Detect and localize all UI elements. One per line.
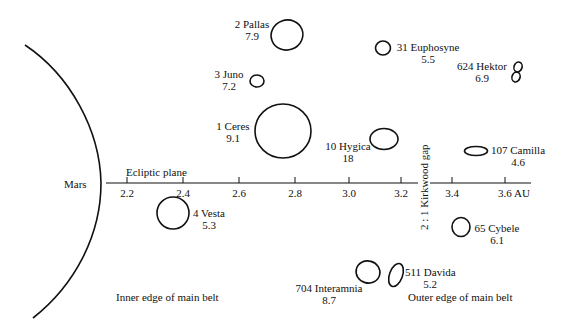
asteroid-ceres-name: 1 Ceres <box>212 120 254 132</box>
asteroid-euphrosyne-shape <box>376 41 391 55</box>
asteroid-juno-value: 7.2 <box>212 80 246 92</box>
asteroid-hygiea-label: 10 Hygica 18 <box>322 140 374 164</box>
asteroid-pallas-label: 2 Pallas 7.9 <box>232 18 272 42</box>
asteroid-hektor-name: 624 Hektor <box>455 60 509 72</box>
tick-label-2-2: 2.2 <box>120 187 134 199</box>
tick-label-3-2: 3.2 <box>394 187 408 199</box>
kirkwood-gap-label: 2 : 1 Kirkwood gap <box>418 144 430 230</box>
asteroid-juno-label: 3 Juno 7.2 <box>212 68 246 92</box>
asteroid-camilla-shape <box>465 147 488 156</box>
asteroid-hygiea-shape <box>370 129 398 150</box>
asteroid-interamnia-value: 8.7 <box>294 294 364 306</box>
asteroid-pallas-shape <box>267 15 307 54</box>
asteroid-hektor-lobe-bottom <box>511 71 522 83</box>
tick-label-2-4: 2.4 <box>176 187 190 199</box>
tick-label-2-6: 2.6 <box>232 187 246 199</box>
asteroid-camilla-name: 107 Camilla <box>488 144 548 156</box>
tick-label-3-0: 3.0 <box>342 187 356 199</box>
asteroid-belt-diagram <box>0 0 567 326</box>
asteroid-vesta-label: 4 Vesta 5.3 <box>190 207 228 231</box>
asteroid-cybele-value: 6.1 <box>471 234 523 246</box>
asteroid-hektor-lobe-top <box>513 61 524 73</box>
asteroid-interamnia-label: 704 Interamnia 8.7 <box>294 282 364 306</box>
asteroid-ceres-shape <box>255 104 311 158</box>
asteroid-davida-shape <box>386 262 406 289</box>
asteroid-ceres-label: 1 Ceres 9.1 <box>212 120 254 144</box>
asteroid-juno-shape <box>250 75 264 87</box>
asteroid-juno-name: 3 Juno <box>212 68 246 80</box>
asteroid-vesta-name: 4 Vesta <box>190 207 228 219</box>
asteroid-davida-value: 5.2 <box>405 278 455 290</box>
asteroid-hektor-label: 624 Hektor 6.9 <box>455 60 509 84</box>
inner-edge-label: Inner edge of main belt <box>116 291 219 303</box>
asteroid-euphrosyne-value: 5.5 <box>393 53 463 65</box>
asteroid-cybele-label: 65 Cybele 6.1 <box>471 222 523 246</box>
asteroid-davida-label: 511 Davida 5.2 <box>405 266 455 290</box>
asteroid-cybele-name: 65 Cybele <box>471 222 523 234</box>
tick-label-3-6: 3.6 AU <box>498 187 530 199</box>
asteroid-hygiea-name: 10 Hygica <box>322 140 374 152</box>
mars-label: Mars <box>64 178 87 190</box>
asteroid-hektor-value: 6.9 <box>455 72 509 84</box>
asteroid-camilla-label: 107 Camilla 4.6 <box>488 144 548 168</box>
asteroid-euphrosyne-name: 31 Euphosyne <box>393 41 463 53</box>
asteroid-ceres-value: 9.1 <box>212 132 254 144</box>
asteroid-camilla-value: 4.6 <box>488 156 548 168</box>
asteroid-vesta-value: 5.3 <box>190 219 228 231</box>
outer-edge-label: Outer edge of main belt <box>408 291 512 303</box>
asteroid-hygiea-value: 18 <box>322 152 374 164</box>
asteroid-vesta-shape <box>157 197 189 229</box>
asteroid-interamnia-name: 704 Interamnia <box>294 282 364 294</box>
asteroid-pallas-name: 2 Pallas <box>232 18 272 30</box>
asteroid-euphrosyne-label: 31 Euphosyne 5.5 <box>393 41 463 65</box>
ecliptic-plane-label: Ecliptic plane <box>126 166 187 178</box>
tick-label-2-8: 2.8 <box>288 187 302 199</box>
asteroid-pallas-value: 7.9 <box>232 30 272 42</box>
mars-limb <box>25 45 101 318</box>
tick-label-3-4: 3.4 <box>445 187 459 199</box>
asteroid-davida-name: 511 Davida <box>405 266 455 278</box>
asteroid-cybele-shape <box>452 218 470 237</box>
